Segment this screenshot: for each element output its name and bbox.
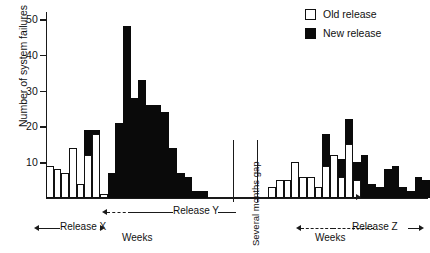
bar-segment-old-release xyxy=(268,187,276,198)
bar xyxy=(100,194,108,198)
bar-segment-new-release xyxy=(422,180,430,198)
bar xyxy=(138,80,146,198)
bar-segment-old-release xyxy=(330,155,338,198)
legend-swatch-new-icon xyxy=(305,28,316,39)
annotation-arrowhead xyxy=(100,225,105,231)
bar-segment-new-release xyxy=(108,173,116,198)
bar xyxy=(368,184,376,198)
bar-segment-new-release xyxy=(154,105,162,198)
bar-segment-new-release xyxy=(338,159,346,177)
bar-segment-new-release xyxy=(115,123,123,198)
annotation-arrowhead xyxy=(356,194,361,200)
bar xyxy=(92,130,100,198)
bar xyxy=(161,112,169,198)
legend-item-old: Old release xyxy=(305,8,381,20)
bar xyxy=(345,119,353,198)
bar-segment-new-release xyxy=(185,177,193,198)
bar xyxy=(291,162,299,198)
bar-segment-old-release xyxy=(284,180,292,198)
bar-segment-old-release xyxy=(291,162,299,198)
bar-segment-new-release xyxy=(161,112,169,198)
bar xyxy=(115,123,123,198)
bar xyxy=(415,177,423,198)
gap-boundary-line xyxy=(233,140,234,202)
bar-segment-new-release xyxy=(368,184,376,198)
bar xyxy=(169,148,177,198)
gap-label: Several months gap xyxy=(250,162,261,247)
bar-segment-old-release xyxy=(338,177,346,198)
bar-segment-old-release xyxy=(345,144,353,198)
bar-segment-new-release xyxy=(146,105,154,198)
y-axis-title: Number of system failures xyxy=(17,0,29,146)
bar-segment-new-release xyxy=(345,119,353,144)
annotation-rule xyxy=(218,212,236,213)
bar-segment-new-release xyxy=(407,191,415,198)
annotation-weeks-right: Weeks xyxy=(315,232,345,243)
bar xyxy=(392,166,400,198)
bar xyxy=(123,26,131,198)
bar xyxy=(376,187,384,198)
bar-segment-new-release xyxy=(169,148,177,198)
bar xyxy=(299,177,307,198)
bar xyxy=(268,187,276,198)
bar-segment-old-release xyxy=(77,184,85,198)
bar-segment-old-release xyxy=(299,177,307,198)
bar-segment-old-release xyxy=(84,155,92,198)
bar-segment-new-release xyxy=(384,169,392,198)
bar xyxy=(276,180,284,198)
annotation-rule xyxy=(39,228,60,229)
legend-item-new: New release xyxy=(305,27,381,39)
bar-segment-old-release xyxy=(276,180,284,198)
bar xyxy=(154,105,162,198)
bar-segment-old-release xyxy=(322,166,330,198)
annotation-weeks-left: Weeks xyxy=(122,232,152,243)
bar-segment-new-release xyxy=(192,191,200,198)
bar xyxy=(54,169,62,198)
bar-segment-new-release xyxy=(376,187,384,198)
bar-segment-new-release xyxy=(131,98,139,198)
bar-segment-new-release xyxy=(200,191,208,198)
legend-label: New release xyxy=(323,27,381,39)
bar xyxy=(177,173,185,198)
annotation-release-x: Release X xyxy=(60,221,106,232)
bar-segment-old-release xyxy=(46,166,54,198)
annotation-rule xyxy=(107,212,131,213)
bar-segment-new-release xyxy=(322,134,330,166)
bar-segment-new-release xyxy=(123,26,131,198)
bar-segment-new-release xyxy=(399,187,407,198)
bar xyxy=(361,155,369,198)
bar xyxy=(322,134,330,198)
bar xyxy=(69,148,77,198)
bar xyxy=(384,169,392,198)
bar-segment-new-release xyxy=(353,162,361,180)
bar xyxy=(185,177,193,198)
bar xyxy=(108,173,116,198)
bar-segment-new-release xyxy=(361,155,369,198)
annotation-release-z: Release Z xyxy=(352,221,398,232)
bar xyxy=(407,191,415,198)
bar-segment-new-release xyxy=(392,166,400,198)
bar xyxy=(399,187,407,198)
bar xyxy=(284,180,292,198)
bar xyxy=(46,166,54,198)
annotation-rule xyxy=(131,212,173,213)
bar-segment-new-release xyxy=(177,173,185,198)
bar-segment-old-release xyxy=(61,173,69,198)
bar-segment-old-release xyxy=(315,187,323,198)
bar xyxy=(315,187,323,198)
bar xyxy=(200,191,208,198)
bar-segment-old-release xyxy=(100,194,108,198)
bar-segment-new-release xyxy=(138,80,146,198)
bar xyxy=(330,155,338,198)
bar xyxy=(338,159,346,198)
legend-label: Old release xyxy=(323,8,377,20)
bar xyxy=(61,173,69,198)
annotation-release-y: Release Y xyxy=(173,205,219,216)
annotation-rule xyxy=(301,228,333,229)
bar-segment-old-release xyxy=(54,169,62,198)
bar-segment-old-release xyxy=(92,134,100,198)
bar-segment-old-release xyxy=(307,177,315,198)
bar-segment-old-release xyxy=(69,148,77,198)
bar-segment-new-release xyxy=(415,177,423,198)
bar-segment-new-release xyxy=(84,130,92,155)
